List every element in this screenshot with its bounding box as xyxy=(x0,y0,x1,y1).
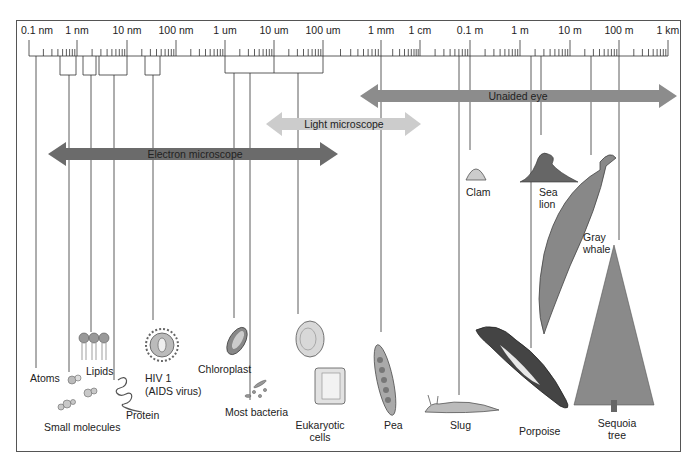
label-gray: Gray xyxy=(583,231,606,243)
porpoise-icon xyxy=(476,327,568,408)
label-hiv: HIV 1 xyxy=(145,372,171,384)
scale-label: 1 um xyxy=(213,24,236,36)
slug-icon xyxy=(425,395,499,413)
label-hiv-sub: (AIDS virus) xyxy=(145,385,202,397)
scale-label: 10 um xyxy=(259,24,288,36)
protein-icon xyxy=(116,378,142,412)
scale-label: 100 um xyxy=(305,24,340,36)
bacteria-icon xyxy=(245,379,267,397)
label-most-bacteria: Most bacteria xyxy=(225,406,288,418)
label-small-molecules: Small molecules xyxy=(44,421,120,433)
pea-icon xyxy=(370,343,401,417)
label-eukaryotic: Eukaryotic xyxy=(295,419,344,431)
scale-label: 10 nm xyxy=(112,24,141,36)
lipids-icon xyxy=(79,333,109,360)
scale-ticks xyxy=(29,40,668,56)
label-sea: Sea xyxy=(539,186,558,198)
label-protein: Protein xyxy=(126,409,159,421)
label-pea: Pea xyxy=(384,419,403,431)
scale-label: 100 m xyxy=(604,24,633,36)
scale-label: 1 nm xyxy=(65,24,88,36)
eukaryotic-cell-plant-icon xyxy=(315,368,345,404)
label-sea-lion-sub: lion xyxy=(539,198,555,210)
size-scale-diagram xyxy=(0,0,696,459)
label-clam: Clam xyxy=(466,186,491,198)
chloroplast-icon xyxy=(223,324,252,358)
label-gray-whale-sub: whale xyxy=(583,243,610,255)
atoms-icon xyxy=(68,375,81,384)
sea-lion-icon xyxy=(520,153,578,182)
label-eukaryotic-sub: cells xyxy=(309,431,330,443)
scale-label: 10 m xyxy=(558,24,581,36)
label-sequoia-sub: tree xyxy=(608,429,626,441)
scale-label: 1 km xyxy=(657,24,680,36)
hiv-virus-icon xyxy=(146,329,178,361)
label-porpoise: Porpoise xyxy=(519,425,560,437)
scale-label: 1 cm xyxy=(409,24,432,36)
clam-icon xyxy=(466,169,486,180)
scale-label: 0.1 m xyxy=(457,24,483,36)
label-atoms: Atoms xyxy=(30,372,60,384)
small-molecules-icon xyxy=(58,388,97,410)
range-label-light-microscope: Light microscope xyxy=(304,118,383,130)
scale-label: 1 m xyxy=(511,24,529,36)
sequoia-tree-icon xyxy=(574,245,654,412)
label-lipids: Lipids xyxy=(86,365,113,377)
scale-label: 0.1 nm xyxy=(21,24,53,36)
label-slug: Slug xyxy=(450,419,471,431)
scale-brackets xyxy=(36,56,619,400)
range-label-unaided-eye: Unaided eye xyxy=(489,90,548,102)
label-sequoia: Sequoia xyxy=(598,417,637,429)
eukaryotic-cell-round-icon xyxy=(296,321,324,357)
scale-label: 1 mm xyxy=(368,24,394,36)
label-chloroplast: Chloroplast xyxy=(198,363,251,375)
scale-label: 100 nm xyxy=(158,24,193,36)
range-label-electron-microscope: Electron microscope xyxy=(147,148,242,160)
